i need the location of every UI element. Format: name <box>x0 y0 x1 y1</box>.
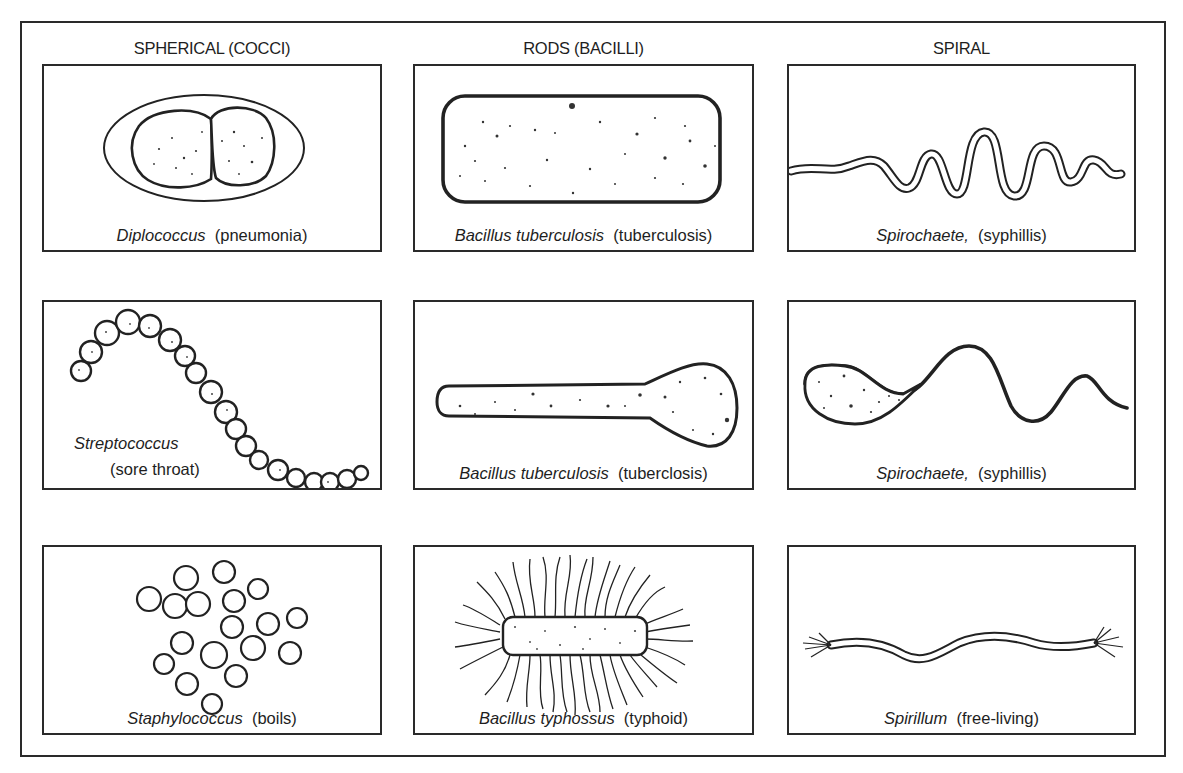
panel-spirochaete-tailed: Spirochaete, (syphillis) <box>787 300 1136 490</box>
panel-spirillum: Spirillum (free-living) <box>787 545 1136 735</box>
caption-streptococcus-genus: Streptococcus <box>74 434 179 453</box>
genus-name: Spirochaete, <box>876 464 969 482</box>
caption-spirochaete-tailed: Spirochaete, (syphillis) <box>789 464 1134 483</box>
spirillum-drawing <box>789 547 1134 733</box>
caption-bacillus-tuberculosis-club: Bacillus tuberculosis (tuberclosis) <box>415 464 752 483</box>
column-heading-bacilli: RODS (BACILLI) <box>413 39 754 58</box>
spirochaete-tailed-drawing <box>789 302 1134 488</box>
club-shaped-bacillus-drawing <box>415 302 752 488</box>
genus-name: Bacillus tuberculosis <box>459 464 608 482</box>
panel-bacillus-tuberculosis-club: Bacillus tuberculosis (tuberclosis) <box>413 300 754 490</box>
genus-name: Bacillus typhossus <box>479 709 615 727</box>
caption-spirochaete: Spirochaete, (syphillis) <box>789 226 1134 245</box>
column-heading-spiral: SPIRAL <box>787 39 1136 58</box>
panel-spirochaete-wave: Spirochaete, (syphillis) <box>787 64 1136 252</box>
streptococcus-chain-drawing <box>44 302 380 488</box>
genus-name: Spirochaete, <box>876 226 969 244</box>
caption-staphylococcus: Staphylococcus (boils) <box>44 709 380 728</box>
panel-staphylococcus: Staphylococcus (boils) <box>42 545 382 735</box>
disease-name: (tuberculosis) <box>613 226 712 244</box>
panel-diplococcus: Diplococcus (pneumonia) <box>42 64 382 252</box>
staphylococcus-cluster-drawing <box>44 547 380 733</box>
disease-name: (typhoid) <box>624 709 688 727</box>
disease-name: (free-living) <box>956 709 1039 727</box>
genus-name: Spirillum <box>884 709 947 727</box>
disease-name: (pneumonia) <box>215 226 308 244</box>
disease-name: (tuberclosis) <box>618 464 708 482</box>
rod-bacillus-drawing <box>415 66 752 250</box>
caption-spirillum: Spirillum (free-living) <box>789 709 1134 728</box>
disease-name: (syphillis) <box>978 226 1047 244</box>
spirochaete-wave-drawing <box>789 66 1134 250</box>
panel-bacillus-typhossus: Bacillus typhossus (typhoid) <box>413 545 754 735</box>
caption-diplococcus: Diplococcus (pneumonia) <box>44 226 380 245</box>
caption-bacillus-typhossus: Bacillus typhossus (typhoid) <box>415 709 752 728</box>
disease-name: (boils) <box>252 709 297 727</box>
diplococcus-drawing <box>44 66 380 250</box>
flagellated-bacillus-drawing <box>415 547 752 733</box>
panel-streptococcus: Streptococcus (sore throat) <box>42 300 382 490</box>
caption-bacillus-tuberculosis: Bacillus tuberculosis (tuberculosis) <box>415 226 752 245</box>
caption-streptococcus-disease: (sore throat) <box>110 460 200 479</box>
column-heading-cocci: SPHERICAL (COCCI) <box>42 39 382 58</box>
panel-bacillus-tuberculosis-rod: Bacillus tuberculosis (tuberculosis) <box>413 64 754 252</box>
genus-name: Bacillus tuberculosis <box>455 226 604 244</box>
genus-name: Diplococcus <box>117 226 206 244</box>
genus-name: Staphylococcus <box>127 709 243 727</box>
disease-name: (syphillis) <box>978 464 1047 482</box>
